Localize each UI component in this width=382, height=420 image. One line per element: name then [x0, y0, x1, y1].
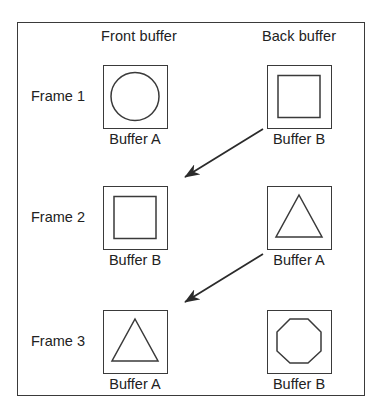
frame-1-back-buffer[interactable] — [267, 65, 332, 129]
frame-3-front-buffer-caption: Buffer A — [80, 376, 190, 392]
frame-3-front-buffer[interactable] — [103, 310, 168, 374]
frame-2-front-buffer[interactable] — [103, 186, 168, 250]
frame-2-front-buffer-caption: Buffer B — [80, 252, 190, 268]
frame-2-back-buffer[interactable] — [267, 186, 332, 250]
octagon-shape-icon — [268, 311, 330, 372]
triangle-shape-icon — [104, 311, 166, 372]
frame-1-front-buffer[interactable] — [103, 65, 168, 129]
frame-1-front-buffer-caption: Buffer A — [80, 131, 190, 147]
double-buffering-diagram: Front buffer Back buffer Frame 1 Buffer … — [0, 0, 382, 420]
square-shape-icon — [104, 187, 166, 248]
triangle-shape-icon — [268, 187, 330, 248]
circle-shape-icon — [104, 66, 166, 127]
row-label-frame-1: Frame 1 — [31, 88, 101, 104]
row-label-frame-2: Frame 2 — [31, 209, 101, 225]
frame-3-back-buffer-caption: Buffer B — [244, 376, 354, 392]
frame-1-back-buffer-caption: Buffer B — [244, 131, 354, 147]
row-label-frame-3: Frame 3 — [31, 333, 101, 349]
square-shape-icon — [268, 66, 330, 127]
frame-3-back-buffer[interactable] — [267, 310, 332, 374]
column-header-back-buffer: Back buffer — [244, 28, 354, 44]
frame-2-back-buffer-caption: Buffer A — [244, 252, 354, 268]
column-header-front-buffer: Front buffer — [84, 28, 194, 44]
